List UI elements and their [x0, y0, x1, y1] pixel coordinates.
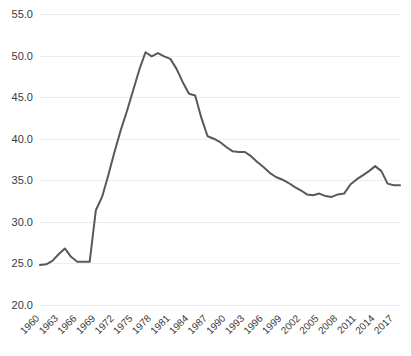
y-axis-tick-label: 45.0	[12, 91, 33, 103]
line-chart: 55.050.045.040.035.030.025.020.0 1960196…	[0, 0, 411, 356]
y-axis-tick-label: 25.0	[12, 257, 33, 269]
y-axis-tick-label: 40.0	[12, 133, 33, 145]
y-axis-tick-label: 55.0	[12, 8, 33, 20]
y-axis-tick-label: 35.0	[12, 174, 33, 186]
y-axis-tick-label: 20.0	[12, 299, 33, 311]
y-axis-tick-label: 50.0	[12, 50, 33, 62]
chart-container: 55.050.045.040.035.030.025.020.0 1960196…	[0, 0, 411, 356]
chart-background	[0, 0, 411, 356]
y-axis-tick-label: 30.0	[12, 216, 33, 228]
